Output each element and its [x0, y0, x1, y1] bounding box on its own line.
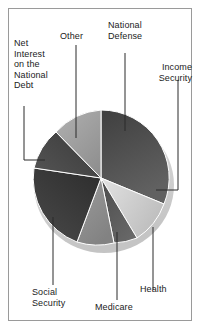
pie-slices: [33, 110, 169, 245]
pie-label-other: Other: [60, 31, 83, 42]
pie-label-medicare: Medicare: [95, 302, 133, 313]
pie-label-income-security: Income Security: [128, 62, 192, 83]
pie-label-social-security: Social Security: [32, 287, 65, 308]
pie-chart-figure: National Defense Income Security Health …: [0, 0, 207, 333]
pie-label-national-defense: National Defense: [108, 20, 142, 41]
pie-label-health: Health: [140, 284, 167, 295]
pie-label-net-interest: Net Interest on the National Debt: [14, 38, 48, 91]
